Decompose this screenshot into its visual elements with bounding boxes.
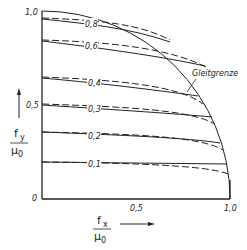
svg-text:0: 0: [18, 150, 23, 159]
y-tick-0-5: 0,5: [26, 101, 39, 110]
curve-label-0-3: 0,3: [88, 105, 101, 114]
y-axis-label: f y μ 0: [10, 127, 28, 159]
x-tick-1-0: 1,0: [224, 204, 237, 213]
x-axis-label: f x μ 0: [93, 214, 111, 245]
curve-0-3: [42, 104, 215, 124]
curve-label-0-8: 0,8: [85, 20, 98, 29]
chart: 0,8 0,6 0,4 0,3 0,2 0,1 Gleitgrenze 1,0 …: [0, 0, 247, 250]
svg-text:f: f: [97, 214, 102, 227]
curve-0-2: [42, 132, 223, 150]
curve-0-6: [42, 40, 208, 68]
curve-0-1: [42, 162, 228, 174]
svg-text:μ: μ: [11, 144, 18, 157]
x-arrow-head-icon: [148, 222, 155, 226]
curve-labels: 0,8 0,6 0,4 0,3 0,2 0,1: [84, 18, 101, 169]
svg-text:0: 0: [101, 236, 106, 245]
boundary-label: Gleitgrenze: [192, 69, 238, 78]
y-tick-1-0: 1,0: [25, 8, 38, 17]
curve-label-0-2: 0,2: [88, 132, 101, 141]
curve-label-0-4: 0,4: [88, 79, 101, 88]
boundary-curve: [42, 11, 230, 199]
curve-0-8: [42, 18, 170, 42]
svg-text:μ: μ: [94, 230, 101, 243]
curve-label-0-1: 0,1: [88, 160, 101, 169]
curve-label-0-6: 0,6: [85, 42, 98, 51]
svg-text:y: y: [20, 133, 25, 142]
curve-0-4: [42, 77, 203, 104]
x-tick-0-5: 0,5: [130, 204, 143, 213]
svg-text:f: f: [14, 127, 19, 140]
origin-label: 0: [32, 194, 37, 203]
svg-text:x: x: [103, 220, 108, 229]
y-arrow-head-icon: [17, 88, 21, 95]
